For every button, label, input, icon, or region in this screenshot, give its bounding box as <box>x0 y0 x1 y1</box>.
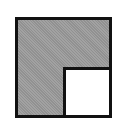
bottom-right-quadrant <box>63 67 112 118</box>
window-quadrant-icon <box>15 17 112 118</box>
